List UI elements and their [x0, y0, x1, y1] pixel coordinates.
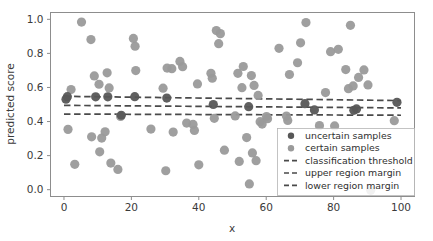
- uncertain-sample-point: [310, 105, 319, 114]
- chart-canvas: 020406080100 0.00.20.40.60.81.0 x predic…: [0, 0, 433, 241]
- certain-sample-point: [321, 88, 330, 97]
- y-tick-label: 0.4: [27, 115, 44, 127]
- certain-sample-point: [130, 42, 139, 51]
- certain-sample-point: [90, 71, 99, 80]
- scatter-plot-figure: 020406080100 0.00.20.40.60.81.0 x predic…: [0, 0, 433, 241]
- certain-sample-point: [86, 35, 95, 44]
- certain-sample-point: [282, 111, 291, 120]
- uncertain-sample-point: [244, 102, 253, 111]
- certain-sample-point: [354, 73, 363, 82]
- certain-sample-point: [251, 156, 260, 165]
- x-tick-label: 100: [391, 201, 411, 213]
- legend-marker-certain: [288, 145, 294, 151]
- certain-sample-point: [296, 38, 305, 47]
- legend-marker-uncertain: [288, 133, 294, 139]
- legend-label: lower region margin: [305, 180, 399, 191]
- certain-sample-point: [216, 29, 225, 38]
- certain-sample-point: [103, 68, 112, 77]
- certain-sample-point: [263, 114, 272, 123]
- certain-sample-point: [293, 58, 302, 67]
- uncertain-sample-point: [63, 92, 72, 101]
- certain-sample-point: [158, 84, 167, 93]
- x-tick-label: 40: [192, 201, 205, 213]
- certain-sample-point: [390, 116, 399, 125]
- uncertain-sample-point: [130, 92, 139, 101]
- certain-sample-point: [237, 83, 246, 92]
- legend-label: classification threshold: [305, 155, 413, 166]
- legend-label: certain samples: [305, 142, 380, 153]
- certain-sample-point: [220, 146, 229, 155]
- certain-sample-point: [248, 148, 257, 157]
- certain-sample-point: [301, 18, 310, 27]
- certain-sample-point: [208, 74, 217, 83]
- x-axis-label: x: [229, 222, 235, 234]
- certain-sample-point: [194, 160, 203, 169]
- uncertain-sample-point: [300, 99, 309, 108]
- certain-sample-point: [274, 44, 283, 53]
- certain-sample-point: [193, 79, 202, 88]
- uncertain-sample-point: [117, 111, 126, 120]
- certain-sample-point: [167, 64, 176, 73]
- y-tick-label: 0.8: [27, 47, 44, 59]
- certain-sample-point: [334, 45, 343, 54]
- certain-sample-point: [235, 157, 244, 166]
- certain-sample-point: [247, 71, 256, 80]
- y-axis-ticks: 0.00.20.40.60.81.0: [27, 13, 51, 195]
- certain-sample-point: [161, 166, 170, 175]
- certain-sample-point: [214, 39, 223, 48]
- reference-line-upper-region-margin: [64, 96, 401, 100]
- y-tick-label: 0.6: [27, 81, 44, 93]
- certain-sample-point: [146, 124, 155, 133]
- certain-sample-point: [63, 125, 72, 134]
- certain-sample-point: [106, 159, 115, 168]
- uncertain-sample-point: [352, 104, 361, 113]
- certain-sample-point: [169, 128, 178, 137]
- certain-sample-point: [87, 132, 96, 141]
- certain-sample-point: [101, 127, 110, 136]
- certain-sample-point: [231, 111, 240, 120]
- certain-sample-point: [359, 65, 368, 74]
- uncertain-sample-point: [103, 92, 112, 101]
- chart-legend: uncertain samplescertain samplesclassifi…: [278, 129, 415, 196]
- uncertain-sample-point: [392, 98, 401, 107]
- certain-sample-point: [129, 34, 138, 43]
- y-tick-label: 1.0: [27, 13, 44, 25]
- uncertain-sample-point: [91, 92, 100, 101]
- certain-sample-point: [70, 160, 79, 169]
- x-axis-ticks: 020406080100: [61, 197, 411, 213]
- legend-label: upper region margin: [305, 167, 401, 178]
- certain-sample-point: [113, 165, 122, 174]
- certain-sample-point: [326, 47, 335, 56]
- y-tick-label: 0.2: [27, 149, 44, 161]
- certain-sample-point: [349, 81, 358, 90]
- certain-sample-point: [190, 126, 199, 135]
- x-tick-label: 20: [125, 201, 138, 213]
- y-axis-label: predicted score: [4, 63, 16, 144]
- certain-sample-point: [363, 80, 372, 89]
- certain-sample-point: [210, 114, 219, 123]
- certain-sample-point: [95, 147, 104, 156]
- uncertain-sample-point: [209, 100, 218, 109]
- certain-sample-point: [285, 70, 294, 79]
- x-tick-label: 80: [327, 201, 340, 213]
- certain-sample-point: [341, 65, 350, 74]
- x-tick-label: 60: [260, 201, 273, 213]
- certain-sample-point: [249, 81, 258, 90]
- certain-sample-point: [131, 66, 140, 75]
- certain-sample-point: [178, 62, 187, 71]
- y-tick-label: 0.0: [27, 183, 44, 195]
- certain-sample-point: [105, 83, 114, 92]
- certain-sample-point: [77, 17, 86, 26]
- certain-sample-point: [245, 179, 254, 188]
- certain-sample-point: [254, 91, 263, 100]
- certain-sample-point: [242, 133, 251, 142]
- certain-sample-point: [346, 21, 355, 30]
- certain-sample-point: [94, 80, 103, 89]
- legend-label: uncertain samples: [305, 130, 392, 141]
- uncertain-sample-point: [162, 93, 171, 102]
- x-tick-label: 0: [61, 201, 68, 213]
- certain-sample-point: [239, 62, 248, 71]
